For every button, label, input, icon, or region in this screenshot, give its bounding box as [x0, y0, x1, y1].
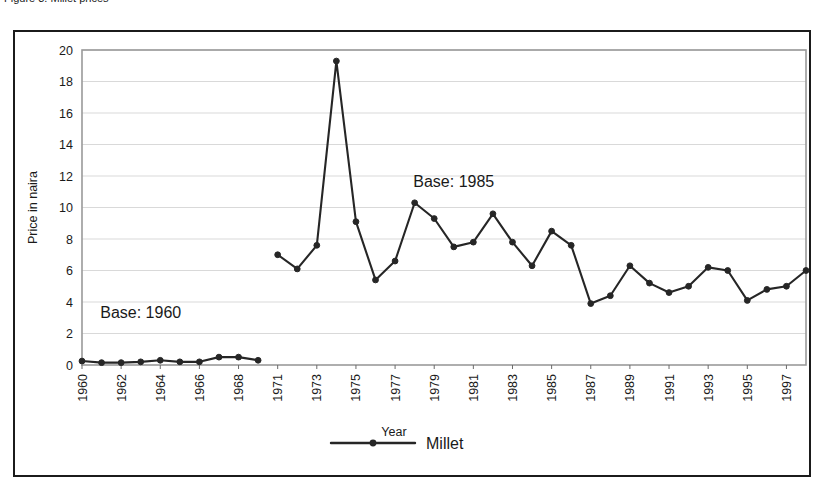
data-point	[588, 301, 594, 307]
chart-annotation: Base: 1960	[100, 304, 181, 321]
legend-label-millet: Millet	[426, 435, 464, 452]
data-point	[275, 252, 281, 258]
millet-price-line-chart: 02468101214161820Price in naira196019621…	[15, 32, 809, 475]
data-point	[138, 359, 144, 365]
data-point	[705, 264, 711, 270]
series-line-millet-seg1	[278, 61, 806, 304]
data-point	[294, 266, 300, 272]
y-tick-label: 2	[66, 327, 73, 341]
data-point	[373, 277, 379, 283]
data-point	[666, 290, 672, 296]
y-tick-label: 14	[59, 138, 73, 152]
y-tick-label: 4	[66, 296, 73, 310]
x-tick-label: 1966	[193, 374, 207, 402]
y-tick-label: 0	[66, 359, 73, 373]
data-point	[784, 283, 790, 289]
data-point	[412, 200, 418, 206]
data-point	[99, 360, 105, 366]
data-point	[79, 358, 85, 364]
x-tick-label: 1981	[467, 374, 481, 402]
legend-marker	[370, 440, 377, 447]
x-tick-label: 1964	[154, 374, 168, 402]
data-point	[470, 239, 476, 245]
data-point	[236, 354, 242, 360]
data-point	[451, 244, 457, 250]
data-point	[647, 280, 653, 286]
figure-caption-text: Figure 3. Millet prices	[4, 0, 109, 4]
x-tick-label: 1985	[545, 374, 559, 402]
data-point	[725, 268, 731, 274]
data-point	[686, 283, 692, 289]
y-tick-label: 8	[66, 233, 73, 247]
data-point	[510, 239, 516, 245]
x-tick-label: 1977	[389, 374, 403, 402]
data-point	[353, 219, 359, 225]
y-tick-label: 18	[59, 75, 73, 89]
data-point	[197, 359, 203, 365]
data-point	[314, 242, 320, 248]
x-tick-label: 1979	[428, 374, 442, 402]
data-point	[118, 360, 124, 366]
data-point	[333, 58, 339, 64]
y-tick-label: 10	[59, 201, 73, 215]
y-tick-label: 6	[66, 264, 73, 278]
y-tick-label: 12	[59, 170, 73, 184]
figure-caption-sliver: Figure 3. Millet prices	[0, 0, 840, 12]
x-tick-label: 1968	[232, 374, 246, 402]
figure-frame: 02468101214161820Price in naira196019621…	[13, 30, 811, 477]
x-axis-title: Year	[381, 425, 406, 439]
data-point	[549, 228, 555, 234]
series-line-millet-seg0	[82, 357, 258, 363]
y-tick-label: 20	[59, 44, 73, 58]
x-tick-label: 1973	[310, 374, 324, 402]
data-point	[627, 263, 633, 269]
x-tick-label: 1960	[76, 374, 90, 402]
x-tick-label: 1962	[115, 374, 129, 402]
data-point	[157, 357, 163, 363]
data-point	[392, 258, 398, 264]
data-point	[568, 242, 574, 248]
y-tick-label: 16	[59, 107, 73, 121]
data-point	[529, 263, 535, 269]
data-point	[744, 298, 750, 304]
data-point	[607, 293, 613, 299]
data-point	[216, 354, 222, 360]
chart-annotation: Base: 1985	[413, 173, 494, 190]
x-tick-label: 1995	[741, 374, 755, 402]
x-tick-label: 1997	[780, 374, 794, 402]
x-tick-label: 1975	[349, 374, 363, 402]
data-point	[431, 216, 437, 222]
data-point	[177, 359, 183, 365]
x-tick-label: 1991	[663, 374, 677, 402]
data-point	[803, 268, 809, 274]
x-tick-label: 1989	[623, 374, 637, 402]
data-point	[490, 211, 496, 217]
x-tick-label: 1987	[584, 374, 598, 402]
x-tick-label: 1971	[271, 374, 285, 402]
x-tick-label: 1983	[506, 374, 520, 402]
x-tick-label: 1993	[702, 374, 716, 402]
y-axis-title: Price in naira	[26, 171, 40, 244]
data-point	[255, 357, 261, 363]
data-point	[764, 287, 770, 293]
